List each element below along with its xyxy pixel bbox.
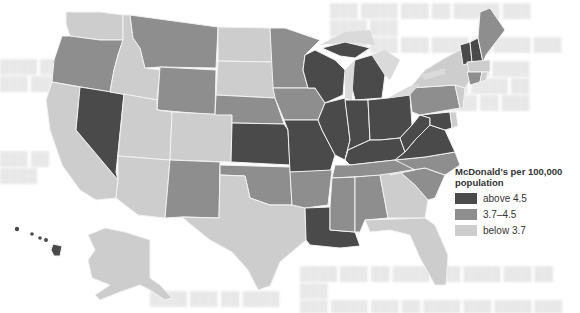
legend-item-mid: 3.7–4.5 <box>455 208 575 220</box>
legend-swatch-dark <box>455 193 477 204</box>
legend-item-below: below 3.7 <box>455 224 575 236</box>
state-pennsylvania[interactable] <box>410 85 460 115</box>
state-rhode-island[interactable] <box>480 72 488 82</box>
legend-item-above: above 4.5 <box>455 192 575 204</box>
legend-label: 3.7–4.5 <box>483 209 516 220</box>
state-wyoming[interactable] <box>157 67 216 115</box>
state-kansas[interactable] <box>231 123 290 165</box>
state-mississippi[interactable] <box>330 177 355 232</box>
state-maine[interactable] <box>478 8 505 62</box>
state-washington[interactable] <box>66 12 123 40</box>
state-massachusetts[interactable] <box>467 60 490 72</box>
state-hawaii[interactable] <box>15 227 62 256</box>
legend: McDonald's per 100,000 population above … <box>455 166 575 236</box>
legend-swatch-mid <box>455 209 477 220</box>
state-arkansas[interactable] <box>290 170 332 208</box>
state-south-dakota[interactable] <box>216 61 275 98</box>
state-colorado[interactable] <box>170 112 232 162</box>
us-choropleth-map <box>0 0 580 313</box>
state-michigan-upper[interactable] <box>322 42 370 58</box>
legend-swatch-light <box>455 225 477 236</box>
legend-label: above 4.5 <box>483 193 527 204</box>
state-north-dakota[interactable] <box>218 27 273 62</box>
state-arizona[interactable] <box>116 156 170 218</box>
state-alaska[interactable] <box>88 228 172 300</box>
state-connecticut[interactable] <box>467 72 482 85</box>
legend-title: McDonald's per 100,000 population <box>455 166 575 188</box>
state-new-mexico[interactable] <box>165 160 220 218</box>
legend-label: below 3.7 <box>483 225 526 236</box>
state-delaware[interactable] <box>450 112 458 128</box>
state-florida[interactable] <box>365 218 448 285</box>
state-new-york[interactable] <box>410 50 470 88</box>
state-montana[interactable] <box>130 15 218 68</box>
